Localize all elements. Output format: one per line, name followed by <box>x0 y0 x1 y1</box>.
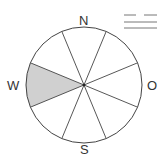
label-south: S <box>80 143 89 156</box>
label-west: W <box>7 79 19 92</box>
label-north: N <box>79 14 88 27</box>
label-east: O <box>147 79 157 92</box>
wind-symbol-icon <box>124 15 157 28</box>
center-point <box>83 84 86 87</box>
shaded-sector-west <box>26 63 84 107</box>
